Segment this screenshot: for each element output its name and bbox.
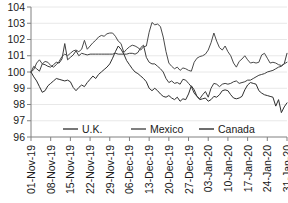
x-axis-tick-label: 03-Jan-20 [202, 145, 214, 192]
y-axis-tick-label: 97 [13, 114, 25, 126]
y-axis-tick-label: 99 [13, 82, 25, 94]
y-axis-tick-label: 103 [7, 17, 25, 29]
x-axis-tick-label: 13-Dec-19 [143, 145, 155, 194]
legend-label-mexico: Mexico [150, 123, 183, 135]
x-axis-tick-label: 17-Jan-20 [242, 145, 254, 192]
x-axis-tick-label: 10-Jan-20 [222, 145, 234, 192]
y-axis-tick-label: 98 [13, 98, 25, 110]
y-axis-tick-label: 100 [7, 66, 25, 78]
x-axis-tick-label: 08-Nov-19 [45, 145, 57, 194]
y-axis-tick-label: 102 [7, 33, 25, 45]
legend-label-uk: U.K. [82, 123, 102, 135]
line-chart: 96979899100101102103104 01-Nov-1908-Nov-… [0, 0, 288, 203]
y-axis-tick-labels: 96979899100101102103104 [7, 1, 25, 143]
y-axis-ticks [27, 7, 31, 137]
chart-container: 96979899100101102103104 01-Nov-1908-Nov-… [0, 0, 288, 203]
x-axis-tick-label: 20-Dec-19 [163, 145, 175, 194]
x-axis-tick-labels: 01-Nov-1908-Nov-1915-Nov-1922-Nov-1929-N… [25, 145, 288, 194]
x-axis-tick-label: 29-Nov-19 [104, 145, 116, 194]
y-axis-tick-label: 104 [7, 1, 25, 13]
x-axis-tick-label: 15-Nov-19 [64, 145, 76, 194]
x-axis-ticks [31, 137, 287, 141]
chart-legend: U.K.MexicoCanada [63, 123, 255, 135]
x-axis-tick-label: 31-Jan-20 [281, 145, 288, 192]
x-axis-tick-label: 01-Nov-19 [25, 145, 37, 194]
x-axis-tick-label: 27-Dec-19 [183, 145, 195, 194]
x-axis-tick-label: 22-Nov-19 [84, 145, 96, 194]
x-axis-tick-label: 06-Dec-19 [123, 145, 135, 194]
y-axis-tick-label: 96 [13, 131, 25, 143]
legend-label-canada: Canada [218, 123, 255, 135]
y-axis-tick-label: 101 [7, 49, 25, 61]
x-axis-tick-label: 24-Jan-20 [261, 145, 273, 192]
